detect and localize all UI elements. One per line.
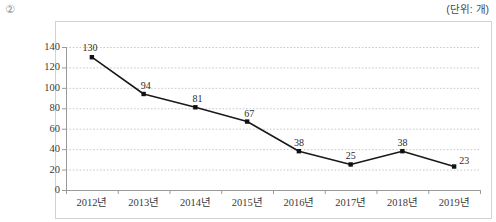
item-number-marker: ② [5, 3, 15, 16]
chart-header: ② (단위: 개) [0, 0, 496, 22]
chart-plot-frame [55, 21, 492, 219]
unit-label: (단위: 개) [446, 3, 489, 16]
